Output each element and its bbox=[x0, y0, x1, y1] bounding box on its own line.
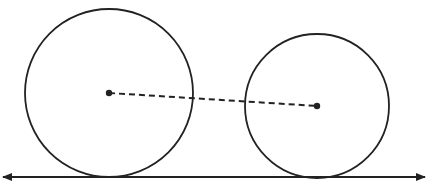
large-circle-center bbox=[106, 90, 112, 96]
dashed-center-connector bbox=[109, 93, 317, 106]
small-circle-center bbox=[314, 103, 320, 109]
two-circles-on-line-diagram bbox=[0, 0, 428, 196]
